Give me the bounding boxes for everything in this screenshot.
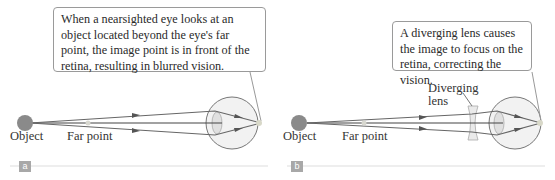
panel-tag-a: a: [19, 161, 31, 172]
panel-a: When a nearsighted eye looks at an objec…: [0, 0, 278, 180]
image-point: [256, 120, 262, 126]
ray-arrow: [419, 126, 427, 131]
image-point: [537, 120, 543, 126]
ray-arrow: [419, 115, 427, 120]
far-point-marker: [362, 121, 367, 126]
panel-b: A diverging lens causes the image to foc…: [277, 0, 555, 180]
object-label: Object: [10, 129, 43, 144]
far-point-label: Far point: [342, 129, 387, 144]
far-point-marker: [86, 121, 91, 126]
far-point-label: Far point: [67, 129, 112, 144]
callout-a: When a nearsighted eye looks at an objec…: [53, 7, 266, 72]
callout-b: A diverging lens causes the image to foc…: [392, 21, 532, 71]
object-label: Object: [283, 129, 316, 144]
panel-tag-b: b: [291, 161, 303, 172]
diverging-lens-label: Diverging lens: [428, 82, 478, 108]
